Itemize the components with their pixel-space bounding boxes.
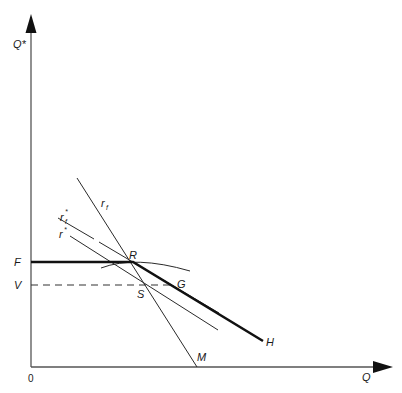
point-h-label: H <box>266 336 274 348</box>
r-f-line <box>77 178 197 367</box>
svg-text:*: * <box>65 208 68 215</box>
y-axis <box>26 14 37 367</box>
y-axis-label: Q* <box>13 38 27 50</box>
x-axis-label: Q <box>362 371 371 383</box>
x-axis <box>31 361 393 373</box>
origin-label: 0 <box>28 373 34 384</box>
point-s-label: S <box>137 288 145 300</box>
level-f-label: F <box>14 256 22 268</box>
point-r-label: R <box>129 249 137 261</box>
f-r-h-kinked-line <box>31 262 263 341</box>
level-v-label: V <box>14 279 23 291</box>
r-f-label: r f <box>101 197 109 211</box>
x-axis-arrow-icon <box>373 361 393 373</box>
reaction-function-diagram: Q* Q 0 F V R S G H M r f r * f r * <box>0 0 402 393</box>
r-f-star-label: r * f <box>60 208 68 225</box>
r-star-label: r * <box>59 226 67 240</box>
svg-text:*: * <box>64 226 67 233</box>
r-star-line <box>70 236 218 330</box>
svg-text:f: f <box>106 204 109 211</box>
y-axis-arrow-icon <box>26 14 37 33</box>
point-g-label: G <box>177 278 186 290</box>
point-m-label: M <box>197 351 207 363</box>
